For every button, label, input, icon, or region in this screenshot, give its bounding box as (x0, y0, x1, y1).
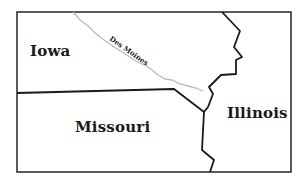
iowa-missouri-border (17, 89, 204, 112)
map-canvas (0, 0, 306, 185)
state-map: Iowa Missouri Illinois Des Moines (0, 0, 306, 185)
missouri-illinois-border (202, 112, 214, 172)
state-label-illinois: Illinois (227, 104, 288, 122)
state-label-missouri: Missouri (75, 118, 150, 136)
state-label-iowa: Iowa (30, 42, 70, 60)
iowa-illinois-border (204, 12, 242, 112)
